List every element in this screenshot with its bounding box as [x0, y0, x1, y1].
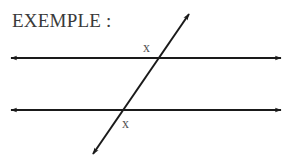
transversal-line: [93, 14, 189, 154]
parallel-lines-diagram: x x: [0, 0, 298, 160]
angle-label-top: x: [143, 40, 150, 55]
angle-label-bottom: x: [122, 116, 129, 131]
